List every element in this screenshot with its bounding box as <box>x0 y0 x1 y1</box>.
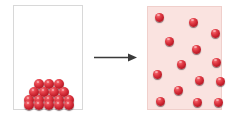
dispersed-particle <box>165 37 174 46</box>
dispersed-particle <box>216 77 225 86</box>
dispersed-particle <box>214 98 223 107</box>
state-change-diagram <box>0 0 231 115</box>
dispersed-particle <box>156 97 165 106</box>
solid-particle <box>34 100 44 110</box>
dispersed-particle <box>189 18 198 27</box>
dispersed-particle <box>192 45 201 54</box>
dispersed-particle <box>195 76 204 85</box>
dispersed-particle <box>177 60 186 69</box>
solid-particle <box>54 100 64 110</box>
dispersed-particle <box>212 58 221 67</box>
transition-arrow <box>94 53 137 62</box>
arrow-right-icon <box>94 53 137 62</box>
dispersed-particle <box>174 86 183 95</box>
solid-state-container <box>13 5 83 110</box>
dispersed-particle <box>153 70 162 79</box>
dispersed-particle <box>193 98 202 107</box>
dispersed-particle <box>211 29 220 38</box>
solid-particle <box>64 100 74 110</box>
solid-particle <box>44 100 54 110</box>
dispersed-state-container <box>147 6 222 110</box>
dispersed-particle <box>155 13 164 22</box>
solid-particle <box>24 100 34 110</box>
